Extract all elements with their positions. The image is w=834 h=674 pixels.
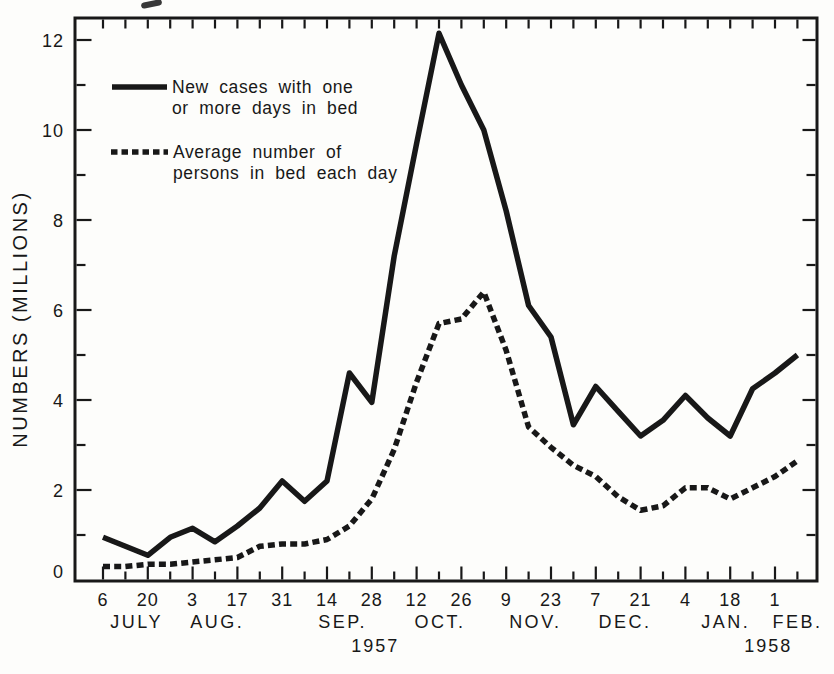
figure-canvas: 62031731142812269237214181024681012JULYA… — [0, 0, 834, 674]
y-tick-label: 8 — [53, 211, 64, 231]
y-tick-label: 2 — [53, 481, 64, 501]
x-tick-label: 4 — [680, 590, 691, 610]
x-tick-label: 21 — [630, 590, 652, 610]
x-tick-label: 12 — [406, 590, 428, 610]
series-avg-persons-in-bed-line — [103, 292, 797, 567]
month-label: AUG. — [190, 612, 244, 632]
y-tick-label: 4 — [53, 391, 64, 411]
y-tick-label: 10 — [42, 121, 64, 141]
legend: New cases with one or more days in bed A… — [111, 77, 398, 183]
x-tick-label: 20 — [137, 590, 159, 610]
x-tick-label: 23 — [540, 590, 562, 610]
x-tick-label: 9 — [501, 590, 512, 610]
year-label: 1957 — [351, 636, 399, 656]
legend-entry-1-line-1: New cases with one — [172, 77, 353, 97]
month-label: DEC. — [598, 612, 651, 632]
influenza-line-chart: 62031731142812269237214181024681012JULYA… — [0, 0, 834, 674]
legend-entry-1-line-2: or more days in bed — [172, 98, 358, 118]
x-tick-label: 17 — [226, 590, 248, 610]
x-tick-label: 26 — [450, 590, 472, 610]
year-label: 1958 — [744, 636, 792, 656]
month-label: JAN. — [701, 612, 750, 632]
x-tick-label: 3 — [187, 590, 198, 610]
y-axis-title: NUMBERS (MILLIONS) — [9, 190, 31, 447]
x-tick-label: 31 — [271, 590, 293, 610]
month-label: JULY — [110, 612, 163, 632]
month-label: OCT. — [415, 612, 466, 632]
x-tick-label: 6 — [97, 590, 108, 610]
legend-entry-2-line-2: persons in bed each day — [173, 163, 398, 183]
x-tick-label: 28 — [361, 590, 383, 610]
month-label: NOV. — [509, 612, 561, 632]
y-tick-label: 6 — [53, 301, 64, 321]
legend-entry-2-line-1: Average number of — [173, 142, 342, 162]
x-tick-label: 18 — [719, 590, 741, 610]
y-tick-label: 0 — [53, 562, 64, 582]
month-label: FEB. — [772, 612, 822, 632]
month-label: SEP. — [318, 612, 367, 632]
x-tick-label: 14 — [316, 590, 338, 610]
x-tick-label: 7 — [590, 590, 601, 610]
x-tick-label: 1 — [769, 590, 780, 610]
y-tick-label: 12 — [42, 31, 64, 51]
